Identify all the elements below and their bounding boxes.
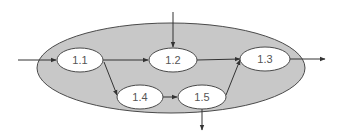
node-1-2: 1.2: [149, 48, 197, 72]
node-1-3: 1.3: [240, 47, 290, 71]
node-1-4: 1.4: [117, 85, 163, 109]
node-label: 1.1: [72, 54, 87, 66]
node-label: 1.3: [257, 53, 272, 65]
node-label: 1.2: [165, 54, 180, 66]
node-1-1: 1.1: [57, 48, 103, 72]
node-label: 1.4: [132, 91, 147, 103]
node-label: 1.5: [194, 91, 209, 103]
process-flow-diagram: 1.1 1.2 1.3 1.4 1.5: [0, 0, 342, 139]
node-1-5: 1.5: [178, 85, 226, 109]
